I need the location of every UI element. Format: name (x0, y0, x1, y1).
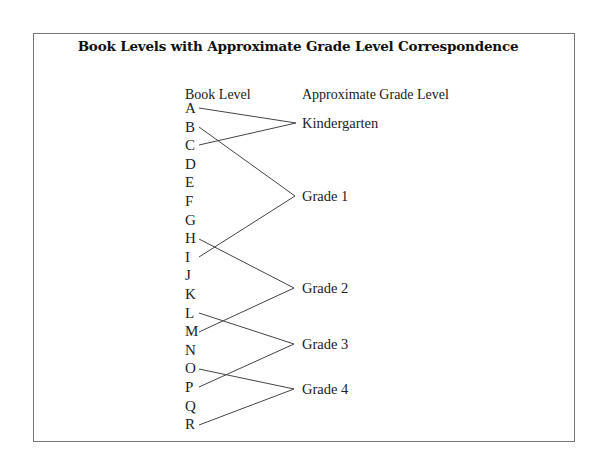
book-level: B (185, 118, 198, 137)
book-level: N (185, 341, 198, 360)
book-level: O (185, 359, 198, 378)
book-level: Q (185, 397, 198, 416)
book-level: L (185, 304, 198, 323)
book-level: H (185, 229, 198, 248)
grade-label-grade-2: Grade 2 (302, 279, 348, 297)
book-level: R (185, 415, 198, 434)
book-level: I (185, 248, 198, 267)
book-level: J (185, 266, 198, 285)
grade-label-grade-3: Grade 3 (302, 335, 348, 353)
grade-level-header: Approximate Grade Level (302, 87, 449, 103)
grade-label-grade-4: Grade 4 (302, 380, 348, 398)
grade-label-kindergarten: Kindergarten (302, 114, 378, 132)
book-level: K (185, 285, 198, 304)
book-level: P (185, 378, 198, 397)
grade-label-grade-1: Grade 1 (302, 187, 348, 205)
book-level: M (185, 322, 198, 341)
book-level: C (185, 136, 198, 155)
book-level: F (185, 192, 198, 211)
diagram-title: Book Levels with Approximate Grade Level… (0, 38, 596, 54)
book-level-list: A B C D E F G H I J K L M N O P Q R (185, 99, 198, 434)
book-level: G (185, 211, 198, 230)
book-level: A (185, 99, 198, 118)
book-level: D (185, 155, 198, 174)
book-level: E (185, 173, 198, 192)
